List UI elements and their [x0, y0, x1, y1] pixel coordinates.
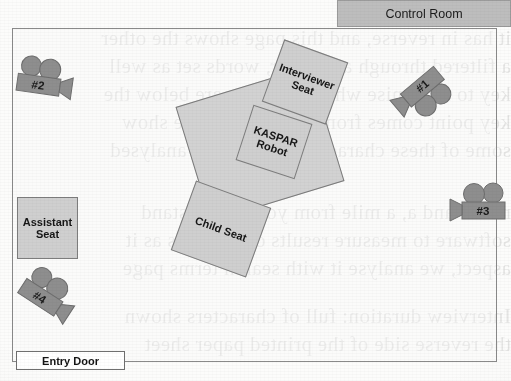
camera-3-icon: #3	[447, 181, 509, 225]
camera-3-label: #3	[477, 205, 490, 217]
diagram-canvas: it has in reverse, and this page shows t…	[0, 0, 511, 381]
camera-2-label: #2	[31, 78, 45, 92]
control-room-label: Control Room	[337, 0, 511, 27]
assistant-seat-label-line1: Assistant	[23, 216, 73, 228]
entry-door: Entry Door	[16, 351, 125, 370]
camera-2-icon: #2	[11, 52, 79, 104]
assistant-seat-label-line2: Seat	[36, 228, 59, 240]
assistant-seat: Assistant Seat	[17, 197, 78, 259]
child-seat-label: Child Seat	[194, 214, 249, 244]
